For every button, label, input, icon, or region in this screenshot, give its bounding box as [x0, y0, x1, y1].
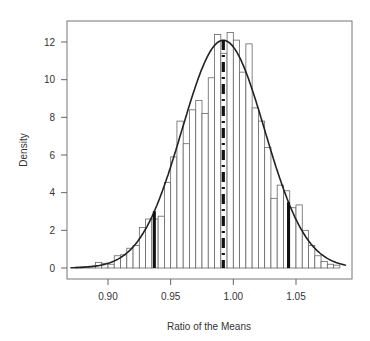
x-tick-label: 0.95: [161, 291, 181, 302]
y-tick-label: 12: [44, 37, 56, 48]
histogram-bar: [321, 261, 327, 268]
histogram-bar: [215, 34, 221, 268]
histogram-bar: [296, 205, 302, 268]
histogram-bar: [183, 144, 189, 268]
histogram-bar: [227, 33, 233, 268]
histogram-bar: [315, 256, 321, 268]
y-axis-title: Density: [18, 133, 29, 166]
histogram-bar: [171, 157, 177, 268]
histogram-bar: [108, 264, 114, 268]
x-tick-label: 0.90: [98, 291, 118, 302]
y-axis: 024681012: [44, 37, 67, 274]
histogram-bar: [133, 245, 139, 268]
histogram-bar: [189, 110, 195, 268]
histogram-bar: [252, 108, 258, 268]
histogram-bar: [246, 44, 252, 268]
histogram-bar: [309, 245, 315, 268]
histogram-bar: [196, 100, 202, 268]
y-tick-label: 4: [49, 187, 55, 198]
histogram-bar: [271, 198, 277, 268]
y-tick-label: 6: [49, 150, 55, 161]
histogram-bar: [164, 182, 170, 268]
x-tick-label: 1.05: [286, 291, 306, 302]
histogram-bar: [233, 40, 239, 268]
histogram-bar: [265, 147, 271, 268]
histogram-bar: [158, 216, 164, 268]
histogram-bar: [277, 185, 283, 268]
histogram-bar: [258, 121, 264, 268]
x-axis: 0.900.951.001.05: [98, 279, 306, 302]
histogram-bar: [202, 114, 208, 268]
y-tick-label: 10: [44, 74, 56, 85]
y-tick-label: 2: [49, 225, 55, 236]
y-tick-label: 8: [49, 112, 55, 123]
histogram-chart: 024681012 0.900.951.001.05 Density Ratio…: [0, 0, 370, 341]
histogram-bar: [334, 265, 340, 268]
y-tick-label: 0: [49, 263, 55, 274]
x-tick-label: 1.00: [224, 291, 244, 302]
x-axis-title: Ratio of the Means: [167, 321, 251, 332]
histogram-bar: [208, 78, 214, 268]
histogram-bar: [240, 72, 246, 268]
histogram-bars: [77, 33, 340, 268]
histogram-bar: [327, 264, 333, 268]
